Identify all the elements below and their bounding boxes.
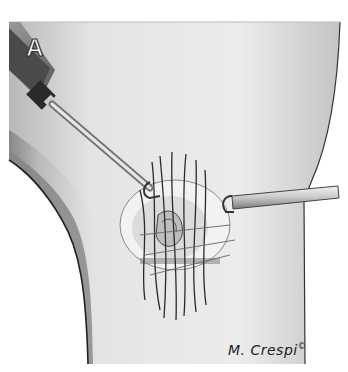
illustration-graphic bbox=[0, 0, 348, 372]
panel-label: A bbox=[26, 36, 43, 60]
signature-text: M. Crespi bbox=[228, 342, 298, 358]
copyright-mark: © bbox=[298, 342, 307, 351]
artist-signature: M. Crespi© bbox=[228, 342, 306, 358]
medical-illustration: A M. Crespi© bbox=[0, 0, 348, 372]
